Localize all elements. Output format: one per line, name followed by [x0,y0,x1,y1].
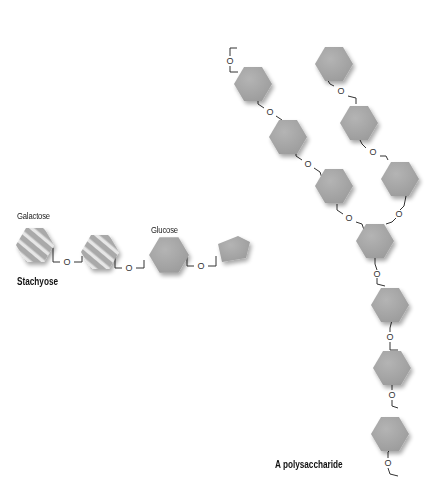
glucose-label: Glucose [151,225,178,235]
glucose-hexagon [149,237,189,273]
galactose-hexagon-2 [81,235,119,269]
glucose-unit [371,417,409,451]
galactose-hexagon-1 [16,228,54,262]
svg-text:O: O [226,56,233,66]
svg-text:O: O [373,269,380,279]
glucose-unit [234,67,272,101]
svg-text:O: O [266,107,273,117]
glucose-unit [381,162,419,196]
svg-text:O: O [388,390,395,400]
glucose-unit [315,47,353,81]
svg-text:O: O [386,332,393,342]
svg-text:O: O [345,213,352,223]
svg-text:O: O [337,86,344,96]
glucose-unit [269,120,307,154]
svg-text:O: O [384,458,391,468]
svg-text:O: O [197,261,204,271]
svg-text:O: O [63,257,70,267]
svg-text:O: O [369,147,376,157]
polysaccharide-label: A polysaccharide [275,459,343,470]
glucose-unit [371,288,409,322]
svg-text:O: O [125,263,132,273]
svg-text:O: O [395,209,402,219]
glucose-unit [356,224,394,258]
stachyose-label: Stachyose [17,276,58,287]
glucose-unit [373,351,411,385]
galactose-label: Galactose [17,211,50,221]
svg-text:O: O [304,159,311,169]
glucose-unit [340,106,378,140]
fructose-pentagon [218,236,250,262]
carbohydrate-diagram: O O O O O O O O O O O O O O [0,0,443,491]
